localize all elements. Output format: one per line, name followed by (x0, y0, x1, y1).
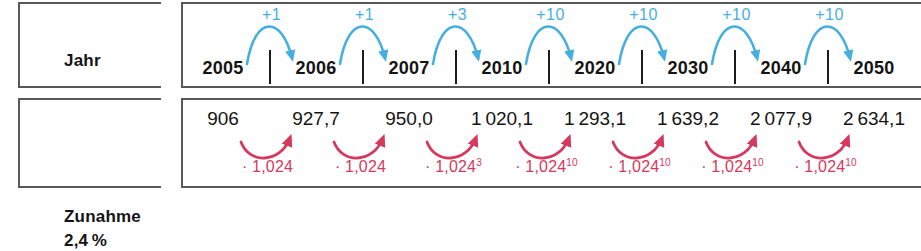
increase-value-cell: 2 634,1 (831, 106, 917, 132)
year-step-label: +1 (331, 6, 399, 24)
growth-factor-label: · 1,02410 (592, 158, 688, 176)
year-separator (455, 50, 457, 84)
year-step-label: +10 (517, 6, 585, 24)
growth-factor-label: · 1,0243 (406, 158, 502, 176)
year-step-label: +10 (703, 6, 771, 24)
growth-factor-arrow (334, 138, 383, 158)
growth-factor-label: · 1,024 (313, 158, 409, 176)
year-track-box: 20052006200720102020203020402050+1+1+3+1… (181, 2, 921, 88)
year-cell: 2005 (180, 54, 266, 82)
year-step-label: +3 (424, 6, 492, 24)
year-cell: 2020 (552, 54, 638, 82)
year-separator (641, 50, 643, 84)
year-separator (734, 50, 736, 84)
increase-label-box: Zunahme 2,4 % (18, 98, 161, 188)
year-cell: 2030 (645, 54, 731, 82)
increase-value-cell: 927,7 (273, 106, 359, 132)
growth-factor-label: · 1,02410 (685, 158, 781, 176)
increase-value-cell: 950,0 (366, 106, 452, 132)
year-separator (548, 50, 550, 84)
year-cell: 2007 (366, 54, 452, 82)
year-separator (827, 50, 829, 84)
growth-factor-arrow (613, 138, 662, 158)
year-cell: 2010 (459, 54, 545, 82)
year-cell: 2050 (831, 54, 917, 82)
growth-factor-arrow (799, 138, 848, 158)
growth-factor-label: · 1,024 (220, 158, 316, 176)
growth-factor-arrow (241, 138, 290, 158)
year-cell: 2006 (273, 54, 359, 82)
increase-value-cell: 2 077,9 (738, 106, 824, 132)
increase-value-cell: 1 020,1 (459, 106, 545, 132)
increase-track-box: 906927,7950,01 020,11 293,11 639,22 077,… (181, 98, 921, 188)
growth-factor-exponent: 10 (845, 157, 857, 168)
year-separator (269, 50, 271, 84)
growth-factor-arrow (706, 138, 755, 158)
year-step-label: +1 (238, 6, 306, 24)
year-cell: 2040 (738, 54, 824, 82)
growth-factor-arrow (520, 138, 569, 158)
growth-factor-exponent: 3 (476, 157, 482, 168)
increase-value-cell: 1 639,2 (645, 106, 731, 132)
year-separator (362, 50, 364, 84)
year-step-label: +10 (610, 6, 678, 24)
year-row-label: Jahr (64, 51, 101, 71)
growth-factor-arrow (427, 138, 476, 158)
increase-value-cell: 906 (180, 106, 266, 132)
increase-row-label-line2: 2,4 % (64, 231, 107, 251)
growth-factor-exponent: 10 (659, 157, 671, 168)
increase-value-cell: 1 293,1 (552, 106, 638, 132)
year-step-label: +10 (796, 6, 864, 24)
growth-factor-exponent: 10 (752, 157, 764, 168)
growth-factor-exponent: 10 (566, 157, 578, 168)
year-label-box: Jahr (18, 2, 161, 88)
growth-factor-label: · 1,02410 (778, 158, 874, 176)
growth-factor-label: · 1,02410 (499, 158, 595, 176)
increase-row-label-line1: Zunahme (64, 207, 141, 227)
